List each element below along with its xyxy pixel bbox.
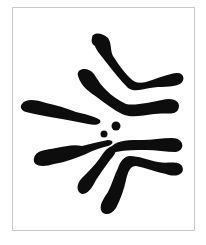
- chromosome-3: [21, 100, 101, 125]
- center-dot-2: [101, 131, 108, 138]
- chromosome-5: [110, 138, 182, 152]
- chromosome-1: [92, 34, 184, 91]
- chromosome-7: [101, 156, 183, 214]
- chromosome-illustration: [0, 0, 206, 245]
- center-dot-1: [112, 122, 121, 131]
- chromosome-2: [78, 69, 179, 116]
